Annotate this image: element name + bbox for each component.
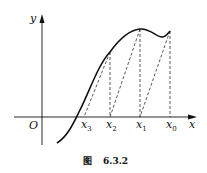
tangent-x2 [84,52,110,117]
newton-method-diagram: y x O x3 x2 x1 x0 图 6.3.2 [0,0,207,173]
y-axis-arrow-icon [40,14,45,23]
point-label-x1: x1 [136,118,147,133]
origin-label: O [29,119,38,132]
tangent-x0 [140,31,170,117]
point-label-x0: x0 [166,118,177,133]
caption-prefix: 图 [83,156,92,166]
caption-number: 6.3.2 [103,156,128,166]
x-axis-label: x [189,118,196,131]
point-label-x3: x3 [81,118,92,133]
y-axis-label: y [29,12,37,25]
tangent-x1 [110,29,140,117]
point-label-x2: x2 [106,118,117,133]
